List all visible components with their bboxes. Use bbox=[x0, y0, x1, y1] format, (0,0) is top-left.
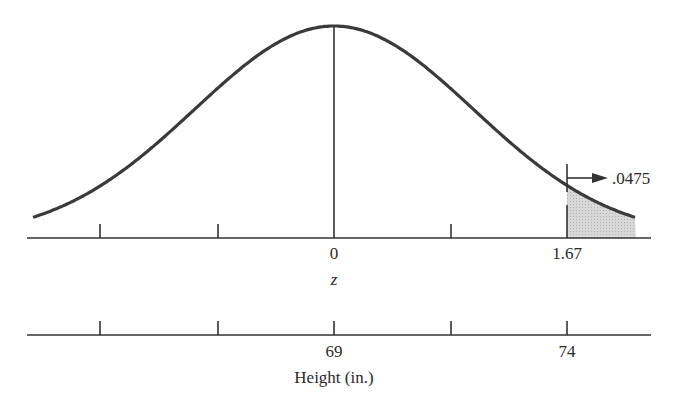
height-axis-ticks bbox=[100, 321, 567, 335]
height-tick-label-mean: 69 bbox=[326, 342, 343, 361]
z-tick-label-0: 0 bbox=[330, 244, 339, 263]
normal-curve-chart: .0475 0 1.67 z 69 74 Height (in.) bbox=[0, 0, 686, 407]
z-tick-label-cut: 1.67 bbox=[552, 244, 582, 263]
z-axis-label: z bbox=[330, 270, 338, 289]
height-axis-label: Height (in.) bbox=[294, 368, 373, 387]
arrow-right-icon bbox=[592, 173, 608, 183]
tail-area-label: .0475 bbox=[612, 169, 650, 188]
height-tick-label-cut: 74 bbox=[559, 342, 577, 361]
